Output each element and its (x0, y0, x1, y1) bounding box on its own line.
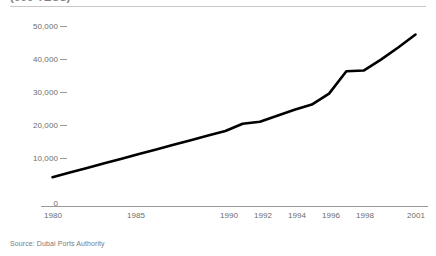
y-tick-label-10000: 10,000 (10, 154, 58, 163)
chart-plot-area (0, 0, 436, 232)
y-tick-label-30000: 30,000 (10, 88, 58, 97)
x-tick-label-1990: 1990 (220, 211, 238, 220)
x-tick-label-1985: 1985 (127, 211, 145, 220)
source-note: Source: Dubai Ports Authority (10, 240, 105, 247)
x-tick-label-2001: 2001 (407, 211, 425, 220)
y-tick-label-0: 0 (10, 199, 58, 208)
x-tick-label-1998: 1998 (356, 211, 374, 220)
x-tick-label-1992: 1992 (254, 211, 272, 220)
y-tick-label-20000: 20,000 (10, 121, 58, 130)
y-tick-marks (60, 27, 67, 159)
x-tick-label-1994: 1994 (288, 211, 306, 220)
data-series-line (53, 35, 416, 178)
y-tick-label-50000: 50,000 (10, 22, 58, 31)
x-tick-label-1980: 1980 (44, 211, 62, 220)
chart-figure: (000 TEUs) 0 10,000 20,000 30,000 40,000… (0, 0, 436, 256)
y-tick-label-40000: 40,000 (10, 55, 58, 64)
x-tick-label-1996: 1996 (322, 211, 340, 220)
